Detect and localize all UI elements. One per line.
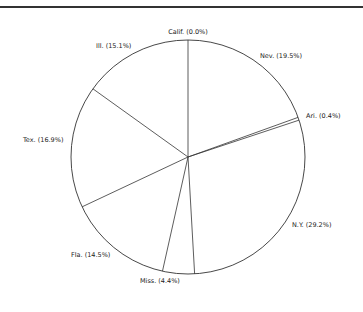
slice-boundary	[188, 117, 298, 157]
slice-label: Ari. (0.4%)	[306, 112, 341, 120]
slice-boundary	[93, 89, 188, 157]
pie-chart: Calif. (0.0%)Nev. (19.5%)Ari. (0.4%)N.Y.…	[0, 0, 363, 312]
slice-label: Calif. (0.0%)	[168, 28, 208, 36]
slice-label: Miss. (4.4%)	[140, 277, 180, 285]
slice-label: Ill. (15.1%)	[96, 42, 131, 50]
slice-boundary	[162, 157, 188, 271]
slice-boundary	[188, 157, 195, 274]
slice-boundary	[188, 120, 299, 157]
slice-label: Nev. (19.5%)	[260, 52, 302, 60]
slice-label: Fla. (14.5%)	[71, 251, 110, 259]
slice-label: N.Y. (29.2%)	[292, 221, 331, 229]
slice-boundary	[82, 157, 188, 207]
slice-label: Tex. (16.9%)	[22, 136, 63, 144]
